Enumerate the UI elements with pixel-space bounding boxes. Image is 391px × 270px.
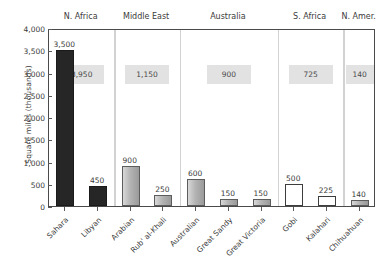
bar: [253, 199, 271, 206]
x-axis-tick-mark: [359, 207, 360, 211]
bar: [122, 166, 140, 206]
group-total-badge: 1,150: [125, 65, 169, 84]
bar: [89, 186, 107, 206]
group-divider: [343, 30, 344, 206]
bar: [318, 196, 336, 206]
group-header: Middle East: [123, 12, 169, 21]
bar-value-label: 500: [286, 174, 300, 183]
bar: [220, 199, 238, 206]
bar-value-label: 450: [90, 176, 104, 185]
y-axis-tick-label: 4,000: [3, 25, 45, 34]
group-header: S. Africa: [293, 12, 326, 21]
group-total-badge: 140: [346, 65, 374, 84]
y-axis-tick-labels: 4,0003,5003,0002,5002,0001,5001,0005000: [0, 0, 45, 270]
x-axis-tick-mark: [162, 207, 163, 211]
group-divider: [278, 30, 279, 206]
group-header: N. Amer.: [341, 12, 375, 21]
x-axis-tick-mark: [195, 207, 196, 211]
bar-value-label: 150: [221, 189, 235, 198]
y-axis-tick-mark: [48, 207, 52, 208]
bar-value-label: 600: [188, 169, 202, 178]
bar: [351, 200, 369, 206]
x-axis-tick-mark: [130, 207, 131, 211]
y-axis-tick-label: 500: [3, 180, 45, 189]
x-axis-tick-mark: [97, 207, 98, 211]
bar: [56, 50, 74, 206]
bar-value-label: 140: [351, 190, 365, 199]
bar-value-label: 3,500: [54, 40, 75, 49]
y-axis-tick-label: 3,000: [3, 69, 45, 78]
y-axis-tick-label: 3,500: [3, 47, 45, 56]
y-axis-tick-label: 1,500: [3, 136, 45, 145]
y-axis-tick-mark: [48, 163, 52, 164]
y-axis-tick-mark: [48, 51, 52, 52]
bar-value-label: 225: [319, 186, 333, 195]
bar: [187, 179, 205, 206]
y-axis-tick-mark: [48, 140, 52, 141]
bar: [285, 184, 303, 206]
x-axis-tick-mark: [326, 207, 327, 211]
x-axis-tick-mark: [293, 207, 294, 211]
y-axis-tick-mark: [48, 185, 52, 186]
group-divider: [114, 30, 115, 206]
bar-chart: Square miles (thousands) 4,0003,5003,000…: [0, 0, 391, 270]
bar: [154, 195, 172, 206]
group-total-badge: 725: [289, 65, 333, 84]
y-axis-tick-mark: [48, 118, 52, 119]
group-header: N. Africa: [64, 12, 98, 21]
y-axis-tick-label: 2,000: [3, 114, 45, 123]
y-axis-tick-label: 1,000: [3, 158, 45, 167]
y-axis-tick-mark: [48, 96, 52, 97]
group-header: Australia: [210, 12, 245, 21]
x-axis-tick-mark: [64, 207, 65, 211]
y-axis-tick-mark: [48, 74, 52, 75]
group-total-badge: 900: [207, 65, 251, 84]
x-axis-tick-mark: [228, 207, 229, 211]
bar-value-label: 250: [155, 185, 169, 194]
group-divider: [180, 30, 181, 206]
y-axis-tick-mark: [48, 29, 52, 30]
y-axis-tick-label: 2,500: [3, 91, 45, 100]
bar-value-label: 900: [123, 156, 137, 165]
x-axis-tick-mark: [261, 207, 262, 211]
y-axis-tick-label: 0: [3, 203, 45, 212]
bar-value-label: 150: [253, 189, 267, 198]
